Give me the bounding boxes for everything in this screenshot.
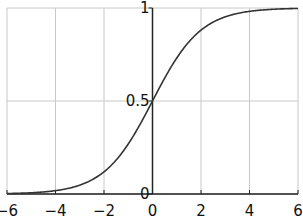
x-tick-label: −2 [93,202,115,220]
sigmoid-chart: −6−4−20246 00.51 [0,0,303,222]
x-tick-label: 4 [245,202,255,220]
y-tick-label: 0.5 [126,92,150,110]
x-tick-label: 0 [148,202,158,220]
x-tick-label: −6 [0,202,18,220]
x-tick-label: −4 [44,202,66,220]
y-tick-label: 1 [140,0,150,17]
y-tick-label: 0 [140,185,150,203]
x-tick-labels: −6−4−20246 [0,202,303,220]
x-tick-label: 2 [196,202,206,220]
y-tick-labels: 00.51 [126,0,150,203]
x-tick-label: 6 [293,202,303,220]
